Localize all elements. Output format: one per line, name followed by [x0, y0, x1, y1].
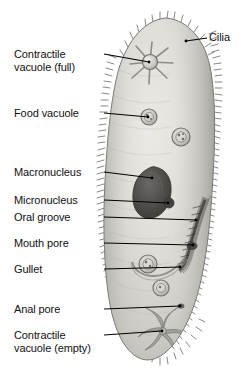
paramecium-diagram-figure: Cilia Contractile vacuole (full) Food va…: [0, 0, 247, 380]
mouth-pore: [187, 242, 198, 250]
label-mouth-pore: Mouth pore: [14, 237, 69, 250]
label-food-vacuole: Food vacuole: [14, 107, 79, 120]
food-vacuole-3: [139, 255, 157, 273]
food-vacuole-4: [153, 280, 169, 296]
label-contractile-vacuole-full: Contractile vacuole (full): [14, 48, 75, 73]
label-cilia: Cilia: [209, 31, 230, 44]
food-vacuole-2: [172, 128, 190, 146]
label-anal-pore: Anal pore: [14, 303, 60, 316]
label-micronucleus: Micronucleus: [14, 194, 78, 207]
label-oral-groove: Oral groove: [14, 211, 70, 224]
label-gullet: Gullet: [14, 263, 42, 276]
label-contractile-vacuole-empty: Contractile vacuole (empty): [14, 329, 91, 354]
label-macronucleus: Macronucleus: [14, 166, 81, 179]
